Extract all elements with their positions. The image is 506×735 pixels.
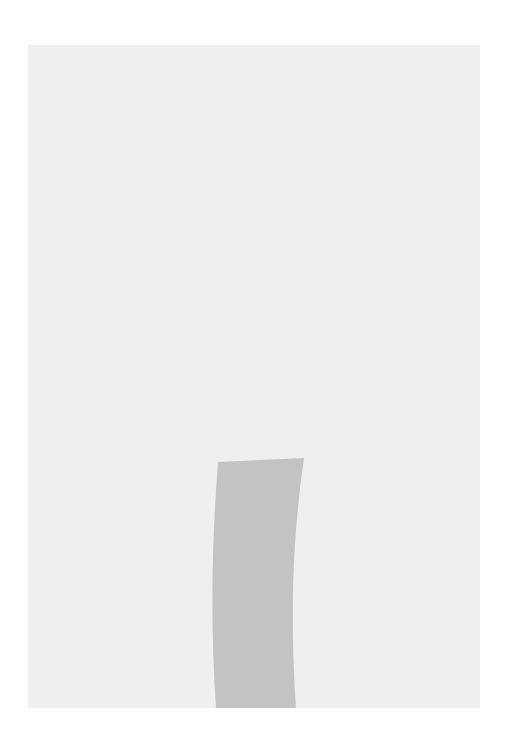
removal-shadow-path [212, 458, 304, 708]
domino-diagram [0, 0, 506, 735]
